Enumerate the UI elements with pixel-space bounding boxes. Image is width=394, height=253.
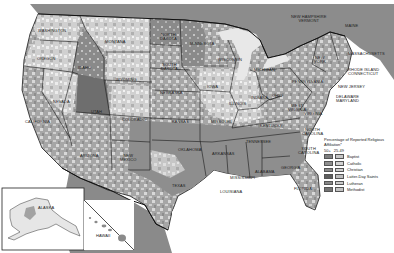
label-virginia: VIRGINIA <box>304 112 322 116</box>
label-california: CALIFORNIA <box>25 120 50 124</box>
label-michigan: MICHIGAN <box>254 68 275 72</box>
label-alaska: ALASKA <box>38 206 54 210</box>
label-kentucky: KENTUCKY <box>260 124 283 128</box>
label-florida: FLORIDA <box>294 187 312 191</box>
label-new-mexico: NEW MEXICO <box>120 154 136 163</box>
label-south-carolina: SOUTH CAROLINA <box>298 147 319 156</box>
label-arkansas: ARKANSAS <box>212 152 235 156</box>
label-pennsylvania: PENNSYLVANIA <box>292 80 323 84</box>
label-new-york: NEW YORK <box>314 56 326 65</box>
label-georgia: GEORGIA <box>281 166 300 170</box>
label-louisiana: LOUISIANA <box>220 190 242 194</box>
label-idaho: IDAHO <box>78 66 91 70</box>
legend-label: Baptist <box>347 154 359 159</box>
label-massachusetts: MASSACHUSETTS <box>348 52 385 56</box>
swatch-baptist-50plus <box>324 154 333 159</box>
label-tennessee: TENNESSEE <box>246 140 271 144</box>
legend-item-christian: Christian <box>324 167 394 173</box>
swatch-lutheran-50plus <box>324 181 333 186</box>
label-new-jersey: NEW JERSEY <box>338 85 365 89</box>
label-kansas: KANSAS <box>172 120 189 124</box>
swatch-christian-50plus <box>324 168 333 173</box>
label-wyoming: WYOMING <box>116 78 137 82</box>
swatch-baptist-25-49 <box>335 154 344 159</box>
label-oregon: OREGON <box>37 57 55 61</box>
label-new-hampshire-vermont: NEW HAMPSHIRE VERMONT <box>291 15 327 24</box>
label-ohio: OHIO <box>272 94 283 98</box>
label-nevada: NEVADA <box>53 100 70 104</box>
label-alabama: ALABAMA <box>255 170 275 174</box>
label-nebraska: NEBRASKA <box>160 91 183 95</box>
legend-header-low: 25-49 <box>334 148 344 153</box>
label-wisconsin: WISCONSIN <box>218 58 242 62</box>
legend: Percentage of Reported Religious Affilia… <box>324 138 394 193</box>
label-west-virginia: WEST VIRGINIA <box>288 104 306 113</box>
legend-item-methodist: Methodist <box>324 187 394 193</box>
swatch-methodist-50plus <box>324 187 333 192</box>
label-mississippi: MISSISSIPPI <box>230 176 255 180</box>
label-washington: WASHINGTON <box>38 29 66 33</box>
legend-header-high: 50+ <box>324 148 331 153</box>
label-hawaii: HAWAII <box>96 234 111 238</box>
legend-title: Percentage of Reported Religious Affilia… <box>324 138 394 147</box>
swatch-catholic-25-49 <box>335 161 344 166</box>
legend-item-baptist: Baptist <box>324 154 394 160</box>
swatch-lutheran-25-49 <box>335 181 344 186</box>
legend-label: Christian <box>347 167 363 172</box>
us-religion-map <box>0 0 394 253</box>
label-colorado: COLORADO <box>122 118 146 122</box>
legend-item-lutheran: Lutheran <box>324 180 394 186</box>
colorado-fill <box>110 84 152 118</box>
label-arizona: ARIZONA <box>80 154 98 158</box>
swatch-catholic-50plus <box>324 161 333 166</box>
legend-label: Latter-Day Saints <box>347 174 378 179</box>
label-south-dakota: SOUTH DAKOTA <box>161 63 178 72</box>
label-montana: MONTANA <box>105 40 125 44</box>
legend-item-catholic: Catholic <box>324 160 394 166</box>
swatch-lds-25-49 <box>335 174 344 179</box>
legend-label: Methodist <box>347 187 364 192</box>
label-maine: MAINE <box>345 24 358 28</box>
label-missouri: MISSOURI <box>211 120 232 124</box>
legend-label: Catholic <box>347 161 361 166</box>
legend-item-latter-day-saints: Latter-Day Saints <box>324 174 394 180</box>
label-texas: TEXAS <box>172 184 186 188</box>
label-north-dakota: NORTH DAKOTA <box>160 33 177 42</box>
label-illinois: ILLINOIS <box>229 102 246 106</box>
label-north-carolina: NORTH CAROLINA <box>302 128 323 137</box>
label-oklahoma: OKLAHOMA <box>178 148 201 152</box>
label-delaware-maryland: DELAWARE MARYLAND <box>336 95 359 104</box>
legend-column-headers: 50+ 25-49 <box>324 148 394 153</box>
swatch-methodist-25-49 <box>335 187 344 192</box>
legend-label: Lutheran <box>347 181 363 186</box>
label-utah: UTAH <box>91 110 102 114</box>
label-indiana: INDIANA <box>251 96 268 100</box>
label-rhode-island-connecticut: RHODE ISLAND CONNECTICUT <box>348 68 379 77</box>
swatch-lds-50plus <box>324 174 333 179</box>
swatch-christian-25-49 <box>335 168 344 173</box>
label-iowa: IOWA <box>207 85 218 89</box>
label-minnesota: MINNESOTA <box>190 42 214 46</box>
